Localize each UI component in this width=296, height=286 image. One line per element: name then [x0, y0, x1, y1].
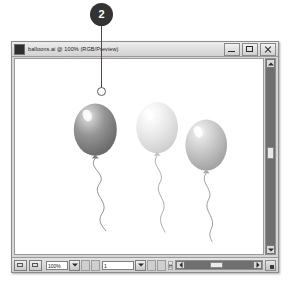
scroll-up-button[interactable] — [266, 59, 275, 68]
callout-leader-line — [101, 19, 102, 91]
scroll-left-button[interactable] — [176, 261, 185, 269]
balloon-middle — [136, 102, 178, 232]
status-bar: 100% 1 Hand — [12, 257, 278, 272]
zoom-dropdown-button[interactable] — [69, 260, 80, 271]
minimize-button[interactable] — [224, 43, 240, 56]
balloons-artwork — [15, 59, 263, 254]
maximize-button[interactable] — [242, 43, 258, 56]
hand-grab-point-marker — [97, 87, 106, 96]
document-canvas[interactable] — [14, 58, 264, 255]
balloon-right — [185, 120, 227, 242]
document-icon[interactable] — [29, 260, 42, 271]
balloon-left — [74, 103, 117, 231]
artboard-number-input[interactable]: 1 — [102, 261, 134, 270]
artboard-dropdown-button[interactable] — [135, 260, 146, 271]
zoom-level-input[interactable]: 100% — [46, 261, 68, 270]
window-titlebar[interactable]: balloons.ai @ 100% (RGB/Preview) — [12, 42, 278, 57]
first-artboard-button[interactable] — [81, 260, 90, 271]
horizontal-scrollbar[interactable] — [175, 260, 263, 270]
callout-number-badge: 2 — [90, 3, 113, 26]
callout-annotation: 2 — [84, 3, 120, 95]
vertical-scroll-thumb[interactable] — [267, 147, 274, 159]
illustrator-app-icon — [14, 44, 25, 55]
scroll-right-button[interactable] — [253, 261, 262, 269]
horizontal-scroll-thumb[interactable] — [210, 262, 223, 268]
artboard-icon[interactable] — [14, 260, 27, 271]
previous-artboard-button[interactable] — [91, 260, 100, 271]
current-tool-indicator[interactable]: Hand — [168, 261, 173, 270]
vertical-scrollbar[interactable] — [265, 58, 276, 255]
last-artboard-button[interactable] — [157, 260, 166, 271]
scroll-down-button[interactable] — [266, 245, 275, 254]
close-button[interactable] — [260, 43, 276, 56]
illustrator-document-window: balloons.ai @ 100% (RGB/Preview) — [11, 41, 279, 273]
resize-grip[interactable] — [265, 260, 276, 271]
window-title: balloons.ai @ 100% (RGB/Preview) — [28, 46, 224, 52]
next-artboard-button[interactable] — [147, 260, 156, 271]
